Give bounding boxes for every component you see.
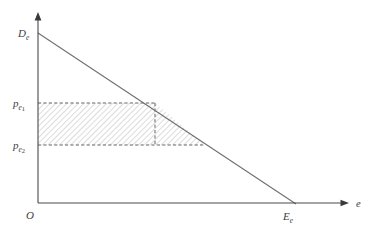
y-axis-arrow-icon	[35, 12, 42, 21]
x-intercept-label: Ee	[282, 210, 294, 225]
price-high-label: pe1	[12, 97, 25, 112]
price-low-label: pe2	[12, 139, 25, 154]
demand-diagram-figure: De pe1 pe2 O Ee e	[0, 0, 380, 232]
x-axis-name-label: e	[356, 198, 361, 209]
figure-canvas: De pe1 pe2 O Ee e	[0, 0, 380, 232]
demand-intercept-label: De	[17, 27, 30, 42]
x-axis-arrow-icon	[341, 200, 350, 206]
origin-label: O	[26, 209, 34, 221]
consumer-surplus-gain-region	[38, 103, 205, 145]
